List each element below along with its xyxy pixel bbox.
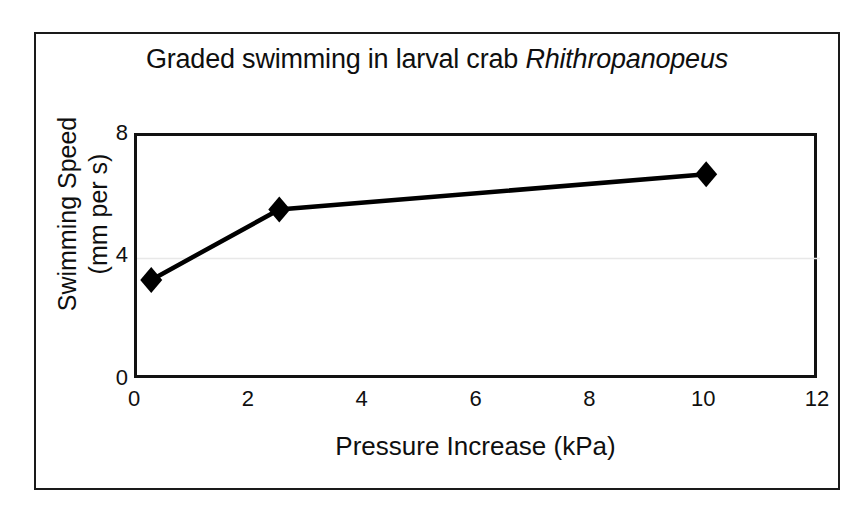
plot-area	[134, 133, 817, 378]
x-tick-label-8: 8	[566, 388, 612, 410]
series-line	[151, 174, 706, 280]
data-point-marker-2	[695, 161, 717, 187]
y-axis-title: Swimming Speed (mm per s)	[52, 69, 114, 359]
y-tick-label-4: 4	[98, 244, 128, 266]
y-tick-label-0: 0	[98, 367, 128, 389]
y-axis-title-line1: Swimming Speed	[52, 69, 83, 359]
plot-canvas	[137, 136, 820, 381]
x-tick-label-6: 6	[453, 388, 499, 410]
chart-title: Graded swimming in larval crab Rhithropa…	[34, 42, 840, 76]
x-tick-label-2: 2	[225, 388, 271, 410]
x-axis-title: Pressure Increase (kPa)	[134, 430, 817, 462]
data-point-marker-1	[268, 197, 290, 223]
chart-title-species: Rhithropanopeus	[525, 44, 728, 74]
x-tick-label-12: 12	[794, 388, 840, 410]
x-tick-label-10: 10	[680, 388, 726, 410]
chart-title-plain: Graded swimming in larval crab	[146, 44, 525, 74]
x-tick-label-0: 0	[111, 388, 157, 410]
y-axis-title-line2: (mm per s)	[83, 69, 114, 359]
data-point-marker-0	[140, 267, 162, 293]
y-tick-label-8: 8	[98, 122, 128, 144]
x-tick-label-4: 4	[339, 388, 385, 410]
